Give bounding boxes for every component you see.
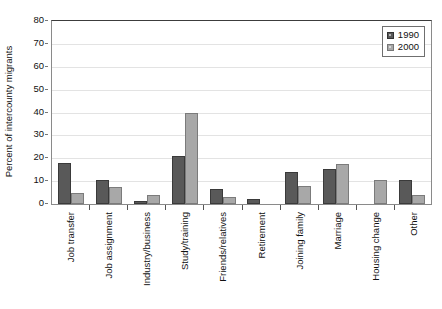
x-tick-label: Marriage (331, 212, 342, 250)
y-tick-label: 70 (33, 38, 44, 48)
y-axis-title-text: Percent of intercounty migrants (4, 45, 15, 176)
x-tick-label: Study/training (179, 212, 190, 270)
y-tick-mark (45, 20, 48, 21)
bar-group (279, 21, 317, 204)
y-tick-mark (45, 134, 48, 135)
x-tick-label: Retirement (255, 212, 266, 258)
bar-1990[interactable] (58, 163, 71, 204)
y-tick-label: 40 (33, 107, 44, 117)
legend-item[interactable]: 1990 (387, 29, 419, 41)
x-label-cell: Retirement (241, 210, 279, 306)
bar-1990[interactable] (399, 180, 412, 204)
y-tick-label: 0 (39, 198, 44, 208)
y-axis-title: Percent of intercounty migrants (2, 18, 16, 204)
y-tick-label: 20 (33, 152, 44, 162)
bar-group (317, 21, 355, 204)
bar-1990[interactable] (134, 201, 147, 204)
bar-2000[interactable] (185, 113, 198, 204)
bar-group (52, 21, 90, 204)
bar-group (242, 21, 280, 204)
legend-item-label: 2000 (398, 41, 419, 53)
bar-2000[interactable] (412, 195, 425, 204)
x-label-cell: Joining family (280, 210, 318, 306)
x-label-cell: Other (394, 210, 432, 306)
y-tick-mark (45, 180, 48, 181)
y-tick-mark (45, 43, 48, 44)
bar-group (128, 21, 166, 204)
y-tick-label: 80 (33, 15, 44, 25)
y-tick-mark (45, 89, 48, 90)
x-label-cell: Industry/business (127, 210, 165, 306)
bar-2000[interactable] (374, 180, 387, 204)
legend-item[interactable]: 2000 (387, 41, 419, 53)
x-axis-labels: Job transferJob assignmentIndustry/busin… (51, 210, 432, 306)
x-tick-label: Joining family (293, 212, 304, 270)
x-label-cell: Study/training (165, 210, 203, 306)
x-tick-label: Job transfer (65, 212, 76, 262)
y-tick-mark (45, 157, 48, 158)
x-tick-label: Industry/business (141, 212, 152, 286)
bar-2000[interactable] (109, 187, 122, 204)
bar-2000[interactable] (336, 164, 349, 204)
x-tick-label: Friends/relatives (217, 212, 228, 282)
bar-group (204, 21, 242, 204)
plot-area: 1990 2000 (51, 20, 432, 205)
x-tick-label: Housing change (369, 212, 380, 281)
x-tick-label: Job assignment (103, 212, 114, 279)
x-label-cell: Friends/relatives (203, 210, 241, 306)
bar-group (166, 21, 204, 204)
y-tick-mark (45, 112, 48, 113)
bar-2000[interactable] (298, 186, 311, 204)
y-tick-mark (45, 66, 48, 67)
bar-1990[interactable] (96, 180, 109, 204)
x-label-cell: Marriage (318, 210, 356, 306)
light-gray-swatch-icon (387, 44, 394, 51)
bar-2000[interactable] (71, 193, 84, 204)
bar-1990[interactable] (285, 172, 298, 204)
bar-1990[interactable] (172, 156, 185, 204)
bar-1990[interactable] (210, 189, 223, 204)
y-tick-label: 10 (33, 175, 44, 185)
y-tick-label: 30 (33, 129, 44, 139)
bar-1990[interactable] (323, 169, 336, 204)
bar-chart: Percent of intercounty migrants 80706050… (0, 0, 442, 309)
dark-gray-swatch-icon (387, 32, 394, 39)
legend: 1990 2000 (382, 26, 425, 57)
bar-group (90, 21, 128, 204)
bar-2000[interactable] (147, 195, 160, 204)
y-tick-label: 60 (33, 61, 44, 71)
x-label-cell: Job transfer (51, 210, 89, 306)
x-tick-label: Other (407, 212, 418, 236)
bar-1990[interactable] (247, 199, 260, 204)
legend-item-label: 1990 (398, 29, 419, 41)
y-tick-mark (45, 203, 48, 204)
clipped-header-text (130, 0, 430, 3)
bar-groups (52, 21, 431, 204)
x-label-cell: Job assignment (89, 210, 127, 306)
y-tick-label: 50 (33, 84, 44, 94)
y-axis-ticks: 80706050403020100 (18, 15, 48, 209)
bar-2000[interactable] (223, 197, 236, 204)
x-label-cell: Housing change (356, 210, 394, 306)
